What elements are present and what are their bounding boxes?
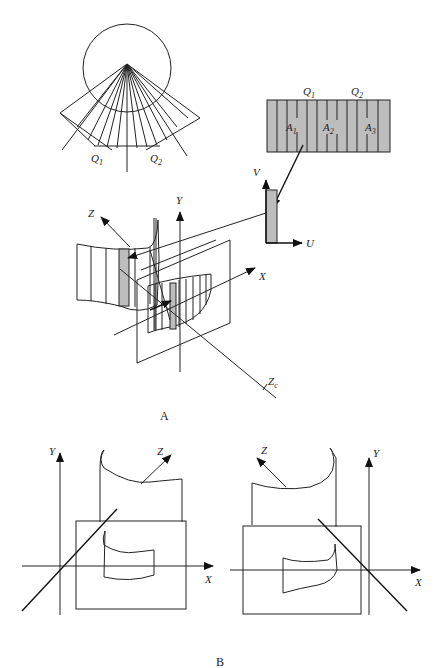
uv-axes: V U bbox=[253, 166, 315, 249]
left-image-plane bbox=[76, 521, 186, 609]
left-view-line bbox=[22, 509, 117, 611]
label-u: U bbox=[306, 237, 315, 249]
left-label-z: Z bbox=[157, 445, 164, 457]
projection-line bbox=[150, 250, 170, 320]
uv-to-surface-arrow bbox=[128, 213, 266, 258]
label-x: X bbox=[258, 270, 267, 282]
right-projected-shape bbox=[283, 544, 337, 593]
panel-b-left: Y X Z bbox=[22, 445, 213, 615]
panel-a-scene: Y X Z Zc A bbox=[77, 194, 278, 423]
left-curved-surface bbox=[100, 450, 182, 522]
fan-diagram: Q1 Q2 bbox=[60, 24, 200, 172]
right-curved-surface bbox=[252, 448, 336, 527]
fan-label-q1: Q1 bbox=[91, 152, 103, 167]
panel-b-right: Y X Z bbox=[230, 444, 423, 615]
curved-surface-highlight bbox=[119, 249, 129, 306]
caption-a: A bbox=[160, 409, 169, 423]
left-label-y: Y bbox=[49, 445, 57, 457]
right-z-axis bbox=[257, 458, 286, 487]
left-label-x: X bbox=[204, 573, 213, 585]
texture-strip: Q1 Q2 A1 A2 A3 bbox=[267, 85, 390, 207]
view-line bbox=[120, 269, 276, 398]
right-label-x: X bbox=[414, 576, 423, 588]
fan-label-q2: Q2 bbox=[150, 152, 162, 167]
label-zc: Zc bbox=[268, 375, 278, 390]
strip-label-q2: Q2 bbox=[351, 85, 363, 100]
label-y: Y bbox=[176, 194, 184, 206]
right-label-z: Z bbox=[261, 444, 268, 456]
left-z-axis bbox=[141, 455, 171, 484]
curved-surface bbox=[77, 220, 159, 310]
z-axis bbox=[101, 217, 130, 247]
label-v: V bbox=[253, 166, 261, 178]
caption-b: B bbox=[216, 655, 224, 668]
figure-canvas: Q1 Q2 Q1 Q2 A1 A2 A3 bbox=[0, 0, 445, 668]
strip-label-q1: Q1 bbox=[303, 85, 315, 100]
right-view-line bbox=[318, 519, 407, 611]
right-label-y: Y bbox=[373, 447, 381, 459]
left-projected-shape bbox=[103, 531, 154, 580]
uv-patch bbox=[266, 190, 277, 243]
label-z: Z bbox=[88, 207, 95, 219]
